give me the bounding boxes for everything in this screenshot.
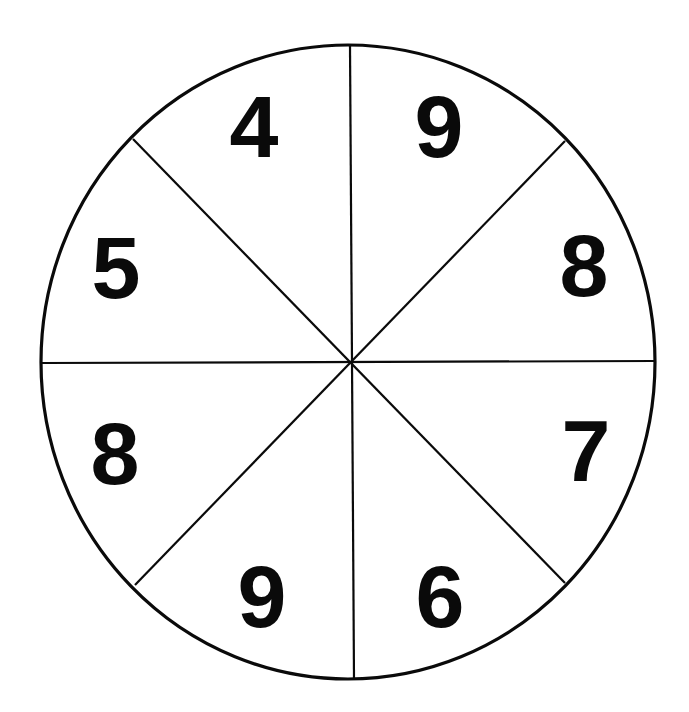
spinner-wheel: 4 9 8 7 6 9 8 5 bbox=[0, 0, 689, 712]
section-label-right-lower: 7 bbox=[562, 401, 611, 500]
section-label-top-left: 4 bbox=[230, 77, 279, 176]
section-label-left-lower: 8 bbox=[91, 404, 140, 503]
section-label-top-right: 9 bbox=[415, 77, 464, 176]
section-label-left-upper: 5 bbox=[92, 218, 141, 317]
section-label-bottom-right: 6 bbox=[416, 547, 465, 646]
section-label-right-upper: 8 bbox=[560, 216, 609, 315]
section-label-bottom-left: 9 bbox=[238, 547, 287, 646]
